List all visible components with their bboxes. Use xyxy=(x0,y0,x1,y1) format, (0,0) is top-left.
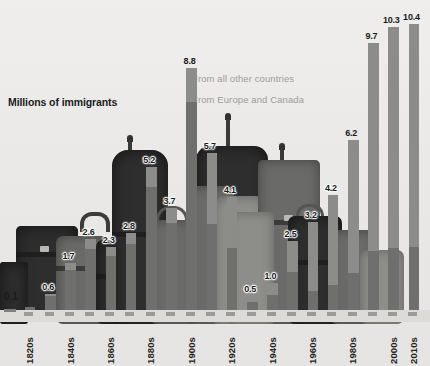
bar-segment-other xyxy=(186,68,197,102)
bar-segment-other xyxy=(308,222,319,291)
x-tick-1880s xyxy=(146,312,155,316)
bar-value-label-1880s: 5.2 xyxy=(143,155,155,165)
bar-segment-europe xyxy=(308,291,319,310)
bar-1970s[interactable] xyxy=(328,195,339,311)
bar-1940s[interactable] xyxy=(267,283,278,311)
x-tick-1870s xyxy=(125,312,134,316)
x-axis-label-1860s: 1860s xyxy=(106,337,116,364)
bar-segment-other xyxy=(368,43,379,251)
bar-1950s[interactable] xyxy=(287,241,298,310)
x-tick-1820s xyxy=(24,312,33,316)
bar-1990s[interactable] xyxy=(368,43,379,310)
x-axis-label-1880s: 1880s xyxy=(146,337,156,364)
bar-segment-europe xyxy=(247,302,258,310)
x-tick-1940s xyxy=(267,312,276,316)
x-axis-label-1940s: 1940s xyxy=(268,337,278,364)
bar-segment-europe xyxy=(126,244,137,310)
bar-1920s[interactable] xyxy=(227,197,238,310)
bar-chart: Millions of immigrants From all other co… xyxy=(0,0,430,366)
x-axis-label-1820s: 1820s xyxy=(25,337,35,364)
bar-value-label-2000s: 10.3 xyxy=(383,15,400,25)
x-tick-1990s xyxy=(368,312,377,316)
bar-value-label-1980s: 6.2 xyxy=(345,128,357,138)
bar-segment-other xyxy=(166,208,177,222)
bar-segment-europe xyxy=(166,223,177,311)
bar-1890s[interactable] xyxy=(166,208,177,310)
bar-2000s[interactable] xyxy=(388,27,399,310)
x-tick-1900s xyxy=(186,312,195,316)
x-tick-2010s xyxy=(408,312,417,316)
bar-value-label-1970s: 4.2 xyxy=(325,183,337,193)
zero-tick-mark xyxy=(4,309,16,312)
bar-value-label-1930s: 0.5 xyxy=(244,284,256,294)
bar-1980s[interactable] xyxy=(348,140,359,311)
bar-segment-europe xyxy=(348,273,359,311)
bar-1930s[interactable] xyxy=(247,296,258,310)
x-axis-label-1980s: 1980s xyxy=(348,337,358,364)
bar-segment-other xyxy=(85,239,96,249)
x-tick-1920s xyxy=(226,312,235,316)
x-tick-1930s xyxy=(247,312,256,316)
bar-1960s[interactable] xyxy=(308,222,319,310)
bar-value-label-1940s: 1.0 xyxy=(264,271,276,281)
bar-1870s[interactable] xyxy=(126,233,137,310)
bar-segment-other xyxy=(207,153,218,224)
bar-value-label-2010s: 10.4 xyxy=(403,12,420,22)
bar-segment-europe xyxy=(267,295,278,310)
bar-value-label-1850s: 2.6 xyxy=(83,227,95,237)
bar-segment-other xyxy=(65,263,76,270)
bar-value-label-1960s: 3.2 xyxy=(305,210,317,220)
x-axis-label-2000s: 2000s xyxy=(389,337,399,364)
bar-1820s[interactable] xyxy=(25,307,36,310)
bar-1860s[interactable] xyxy=(106,247,117,310)
bar-value-label-1950s: 2.5 xyxy=(285,229,297,239)
x-tick-1890s xyxy=(166,312,175,316)
bar-value-label-1990s: 9.7 xyxy=(365,31,377,41)
bar-segment-europe xyxy=(388,248,399,310)
bar-segment-europe xyxy=(106,256,117,310)
bar-segment-europe xyxy=(65,270,76,310)
bar-1850s[interactable] xyxy=(85,239,96,311)
x-axis-label-1840s: 1840s xyxy=(66,337,76,364)
bar-value-label-1920s: 4.1 xyxy=(224,185,236,195)
bar-1830s[interactable] xyxy=(45,294,56,311)
bar-segment-other xyxy=(409,24,420,247)
bar-segment-europe xyxy=(368,251,379,310)
x-tick-1830s xyxy=(45,312,54,316)
bar-segment-other xyxy=(126,233,137,244)
bar-segment-europe xyxy=(186,102,197,310)
x-axis-label-1920s: 1920s xyxy=(227,337,237,364)
bar-1880s[interactable] xyxy=(146,167,157,310)
bar-segment-europe xyxy=(45,296,56,310)
bar-segment-europe xyxy=(287,272,298,310)
bar-value-label-1830s: 0.6 xyxy=(42,282,54,292)
bar-segment-other xyxy=(267,283,278,295)
x-tick-1950s xyxy=(287,312,296,316)
x-axis-label-1960s: 1960s xyxy=(308,337,318,364)
bar-1910s[interactable] xyxy=(207,153,218,310)
bar-segment-europe xyxy=(25,307,36,310)
bar-value-label-1860s: 2.3 xyxy=(103,235,115,245)
x-tick-1910s xyxy=(206,312,215,316)
bar-segment-europe xyxy=(207,224,218,310)
bar-value-label-1870s: 2.8 xyxy=(123,221,135,231)
y-axis-title: Millions of immigrants xyxy=(8,96,117,108)
zero-value-label: 0.1 xyxy=(4,291,18,302)
bar-segment-europe xyxy=(328,285,339,310)
bar-1900s[interactable] xyxy=(186,68,197,310)
bar-value-label-1900s: 8.8 xyxy=(184,56,196,66)
chart-legend: From all other countries From Europe and… xyxy=(192,73,304,105)
legend-item-europe: From Europe and Canada xyxy=(192,94,304,105)
x-tick-1970s xyxy=(327,312,336,316)
bar-segment-other xyxy=(388,27,399,248)
bar-value-label-1910s: 5.7 xyxy=(204,141,216,151)
bar-segment-europe xyxy=(227,248,238,310)
bar-2010s[interactable] xyxy=(409,24,420,310)
bar-segment-europe xyxy=(146,187,157,310)
bar-segment-other xyxy=(227,197,238,248)
bar-segment-other xyxy=(146,167,157,187)
bar-segment-other xyxy=(348,140,359,273)
bar-value-label-1840s: 1.7 xyxy=(62,251,74,261)
bar-1840s[interactable] xyxy=(65,263,76,310)
x-tick-1980s xyxy=(348,312,357,316)
